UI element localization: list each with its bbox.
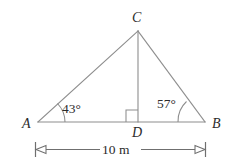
dimension-arrowhead-right: [195, 146, 205, 154]
vertex-label-b: B: [212, 116, 221, 131]
vertex-label-a: A: [21, 116, 31, 131]
dimension-label: 10 m: [102, 142, 130, 157]
triangle-diagram: A B C D 43° 57° 10 m: [0, 0, 231, 166]
vertex-label-d: D: [131, 125, 142, 140]
angle-arc-b: [178, 102, 187, 123]
geometry-figure-container: A B C D 43° 57° 10 m: [0, 0, 231, 166]
angle-label-a: 43°: [62, 101, 81, 116]
dimension-arrowhead-left: [36, 146, 46, 154]
right-angle-marker-d: [126, 110, 138, 122]
vertex-label-c: C: [132, 10, 142, 25]
angle-label-b: 57°: [157, 96, 176, 111]
segment-ac: [38, 31, 138, 122]
